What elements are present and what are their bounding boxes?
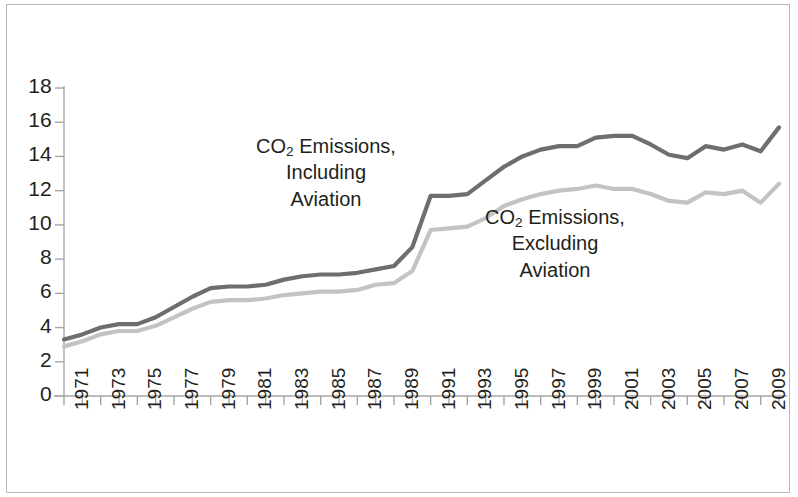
x-axis-tick-label: 2009 [768,368,790,410]
plot-canvas [0,0,798,497]
y-axis-tick-label: 6 [10,279,52,303]
series-label-excluding-line3: Aviation [477,257,633,283]
x-axis-tick-label: 2007 [731,368,753,410]
x-axis-tick-label: 1987 [364,368,386,410]
y-axis-tick-label: 2 [10,348,52,372]
x-axis-tick-label: 2001 [621,368,643,410]
x-axis-tick-label: 1993 [474,368,496,410]
x-axis-tick-label: 1995 [511,368,533,410]
x-axis-tick-label: 1973 [108,368,130,410]
x-axis-tick-label: 1991 [438,368,460,410]
x-axis-tick-label: 1997 [548,368,570,410]
y-axis-tick-label: 18 [10,74,52,98]
x-axis-tick-label: 1981 [254,368,276,410]
data-series [64,127,779,346]
x-axis-tick-label: 1975 [144,368,166,410]
co2-emissions-line-chart: 181614121086420 197119731975197719791981… [0,0,798,497]
co2-text: CO [485,206,515,228]
y-axis-tick-label: 10 [10,211,52,235]
chart-page: 181614121086420 197119731975197719791981… [0,0,798,497]
y-axis-tick-label: 12 [10,177,52,201]
co2-text: CO [256,135,286,157]
series-line [64,184,779,347]
y-axis-tick-label: 4 [10,314,52,338]
y-axis-tick-label: 16 [10,108,52,132]
y-axis-tick-label: 8 [10,245,52,269]
x-axis-tick-label: 1979 [218,368,240,410]
x-axis-tick-label: 1999 [584,368,606,410]
x-axis-tick-label: 1983 [291,368,313,410]
co2-subscript: 2 [286,144,294,159]
series-label-including-aviation: CO2 Emissions, Including Aviation [248,133,404,212]
x-axis-tick-label: 1985 [328,368,350,410]
series-label-excluding-line1: CO2 Emissions, [477,204,633,230]
series-label-excluding-aviation: CO2 Emissions, Excluding Aviation [477,204,633,283]
series-label-including-line1: CO2 Emissions, [248,133,404,159]
x-axis-tick-label: 1989 [401,368,423,410]
emissions-text: Emissions, [294,135,396,157]
x-axis-tick-label: 1971 [71,368,93,410]
x-axis-tick-label: 2003 [658,368,680,410]
series-label-including-line2: Including [248,159,404,185]
co2-subscript: 2 [515,215,523,230]
series-line [64,127,779,339]
emissions-text: Emissions, [523,206,625,228]
y-axis-tick-label: 0 [10,382,52,406]
series-label-excluding-line2: Excluding [477,230,633,256]
y-axis-tick-label: 14 [10,142,52,166]
series-label-including-line3: Aviation [248,186,404,212]
axes [54,86,787,405]
x-axis-tick-label: 2005 [694,368,716,410]
x-axis-tick-label: 1977 [181,368,203,410]
